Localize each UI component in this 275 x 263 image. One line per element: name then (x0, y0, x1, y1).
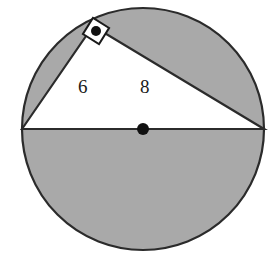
right-angle-dot (91, 26, 101, 36)
leg-length-label-8: 8 (140, 77, 150, 96)
geometry-figure: 6 8 (0, 0, 275, 263)
center-dot (137, 123, 149, 135)
leg-length-label-6: 6 (78, 77, 88, 96)
geometry-canvas (0, 0, 275, 263)
